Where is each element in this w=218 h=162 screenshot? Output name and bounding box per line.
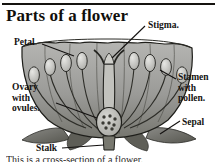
label-sepal: Sepal <box>182 117 204 128</box>
label-stigma: Stigma. <box>148 20 179 31</box>
flower-diagram-page: Parts of a flower <box>0 0 218 162</box>
label-petal: Petal <box>14 37 35 48</box>
page-caption: This is a cross-section of a flower. <box>6 154 212 162</box>
label-stalk: Stalk <box>36 143 57 154</box>
label-ovary-with-ovules: Ovary with ovules. <box>12 82 56 114</box>
label-stamen-with-pollen: Stamen with pollen. <box>178 72 218 104</box>
